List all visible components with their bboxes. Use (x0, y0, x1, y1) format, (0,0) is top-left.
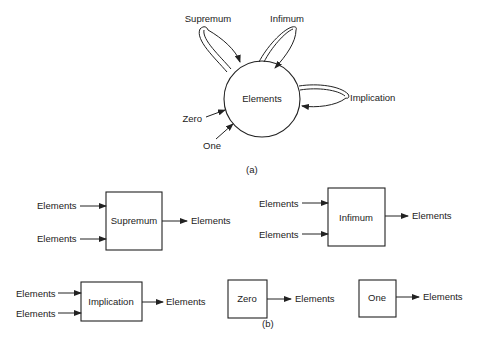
zero-input-label: Zero (182, 113, 202, 124)
implication-loop: Implication (299, 85, 395, 107)
zero-output: Elements (295, 293, 335, 304)
diagram-canvas: Elements Supremum Infimum Implication Ze… (0, 0, 479, 349)
implication-input-2: Elements (16, 308, 56, 319)
implication-loop-label: Implication (350, 92, 395, 103)
supremum-loop-label: Supremum (185, 13, 232, 24)
infimum-output: Elements (412, 210, 452, 221)
implication-operator: Implication Elements Elements Elements (16, 282, 206, 321)
infimum-loop-label: Infimum (270, 13, 304, 24)
infimum-loop: Infimum (259, 13, 304, 68)
infimum-input-2: Elements (259, 229, 299, 240)
infimum-input-1: Elements (259, 198, 299, 209)
one-output: Elements (423, 291, 463, 302)
caption-a: (a) (246, 164, 258, 175)
zero-input: Zero (182, 110, 225, 124)
supremum-operator: Supremum Elements Elements Elements (37, 192, 231, 250)
part-a-graph: Elements Supremum Infimum Implication Ze… (182, 13, 395, 175)
zero-box-label: Zero (237, 293, 257, 304)
supremum-loop: Supremum (185, 13, 240, 72)
zero-operator: Zero Elements (228, 280, 335, 318)
elements-node-label: Elements (242, 93, 282, 104)
implication-output: Elements (166, 296, 206, 307)
infimum-operator: Infimum Elements Elements Elements (259, 188, 452, 246)
one-box-label: One (368, 292, 386, 303)
supremum-output: Elements (191, 215, 231, 226)
implication-box-label: Implication (88, 296, 133, 307)
part-b-operators: Supremum Elements Elements Elements Infi… (16, 188, 463, 329)
supremum-input-2: Elements (37, 233, 77, 244)
supremum-input-1: Elements (37, 200, 77, 211)
one-operator: One Elements (359, 280, 463, 317)
one-input: One (203, 124, 233, 151)
infimum-box-label: Infimum (339, 212, 373, 223)
caption-b: (b) (262, 318, 274, 329)
one-input-label: One (203, 140, 221, 151)
supremum-box-label: Supremum (111, 215, 158, 226)
implication-input-1: Elements (16, 288, 56, 299)
